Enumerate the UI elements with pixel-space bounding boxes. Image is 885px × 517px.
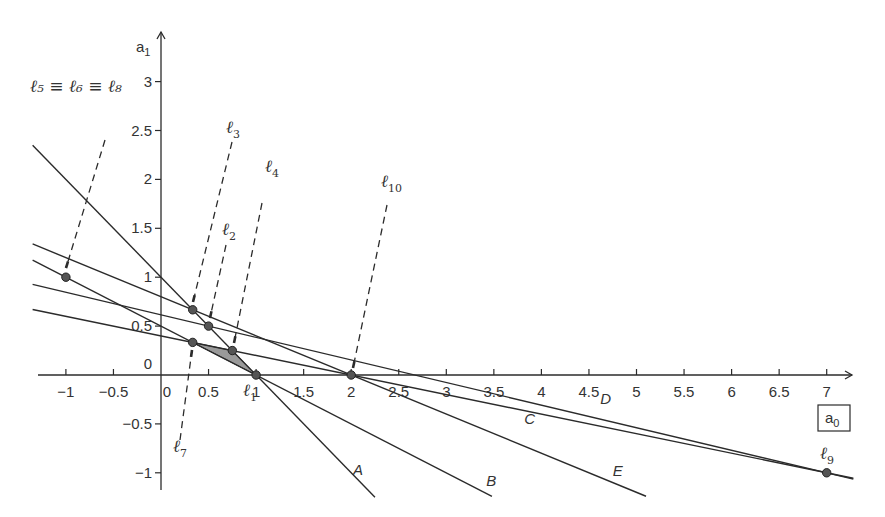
- y-tick-label: 0: [144, 355, 152, 372]
- x-tick-label: 7: [823, 383, 831, 400]
- leader-l4-arrow: [234, 336, 235, 343]
- point-l10: [347, 371, 355, 379]
- point-l9: [823, 469, 831, 477]
- label-l2: ℓ2: [222, 219, 236, 243]
- x-axis-label: a0: [825, 409, 839, 429]
- x-tick-label: 0: [163, 383, 171, 400]
- leader-l3-arrow: [193, 295, 195, 302]
- label-l7: ℓ7: [173, 436, 187, 460]
- point-l5-l6-l8: [62, 273, 70, 281]
- leader-l7-arrow: [191, 350, 192, 357]
- x-tick-label: 5.5: [674, 383, 695, 400]
- label-l4: ℓ4: [265, 156, 279, 180]
- leader-l10: [353, 205, 387, 368]
- axes: −1−0.500.511.522.533.544.555.566.5732.52…: [38, 32, 852, 490]
- label-l5-l6-l8: ℓ₅ ≡ ℓ₆ ≡ ℓ₈: [30, 76, 122, 96]
- y-tick-label: 1.5: [131, 219, 152, 236]
- y-tick-label: −0.5: [122, 415, 152, 432]
- label-l2-sub: 2: [229, 230, 236, 243]
- x-tick-label: 4.5: [579, 383, 600, 400]
- label-l4-sub: 4: [272, 167, 279, 180]
- x-tick-label: 6.5: [769, 383, 790, 400]
- leader-l2: [210, 245, 226, 318]
- line-label-e: E: [613, 462, 624, 479]
- x-axis-label-sub: 0: [833, 417, 839, 429]
- leader-l5-l6-l8: [66, 140, 105, 268]
- label-l10-sub: 10: [388, 182, 402, 195]
- label-l3-sub: 3: [233, 128, 240, 141]
- point-l1: [252, 371, 260, 379]
- line-a: [33, 145, 375, 497]
- line-label-c: C: [524, 410, 535, 427]
- line-e: [33, 244, 646, 496]
- x-tick-label: −1: [57, 383, 74, 400]
- leader-l2-arrow: [210, 311, 211, 318]
- point-l7: [188, 338, 196, 346]
- label-l3: ℓ3: [226, 117, 240, 141]
- x-tick-label: 3: [442, 383, 450, 400]
- leader-l7: [180, 350, 192, 440]
- point-l2: [204, 322, 212, 330]
- label-l9-sub: 9: [827, 454, 834, 467]
- label-l10: ℓ10: [381, 171, 402, 195]
- line-label-a: A: [352, 461, 363, 478]
- x-tick-label: 4: [537, 383, 545, 400]
- x-tick-label: 2: [347, 383, 355, 400]
- x-tick-label: 1.5: [293, 383, 314, 400]
- x-tick-label: −0.5: [99, 383, 129, 400]
- y-axis-label: a1: [136, 38, 150, 58]
- constraint-lines: [33, 145, 854, 497]
- point-l3: [188, 306, 196, 314]
- y-tick-label: 2: [144, 170, 152, 187]
- label-l7-sub: 7: [180, 447, 187, 460]
- y-tick-label: 1: [144, 268, 152, 285]
- y-tick-label: −1: [135, 464, 152, 481]
- label-l9: ℓ9: [820, 443, 834, 467]
- y-tick-label: 3: [144, 73, 152, 90]
- label-l1-sub: 1: [250, 391, 257, 404]
- y-axis-label-sub: 1: [144, 46, 150, 58]
- line-label-b: B: [486, 472, 496, 489]
- leader-l5-l6-l8-arrow: [66, 261, 68, 268]
- line-b: [33, 260, 492, 496]
- leader-l4: [234, 203, 262, 343]
- leader-l10-arrow: [353, 361, 354, 368]
- x-tick-label: 0.5: [198, 383, 219, 400]
- line-d: [33, 284, 854, 479]
- y-tick-label: 2.5: [131, 122, 152, 139]
- x-tick-label: 6: [727, 383, 735, 400]
- constraint-diagram: −1−0.500.511.522.533.544.555.566.5732.52…: [0, 0, 885, 517]
- x-tick-label: 5: [632, 383, 640, 400]
- line-label-d: D: [600, 390, 611, 407]
- point-l4: [228, 346, 236, 354]
